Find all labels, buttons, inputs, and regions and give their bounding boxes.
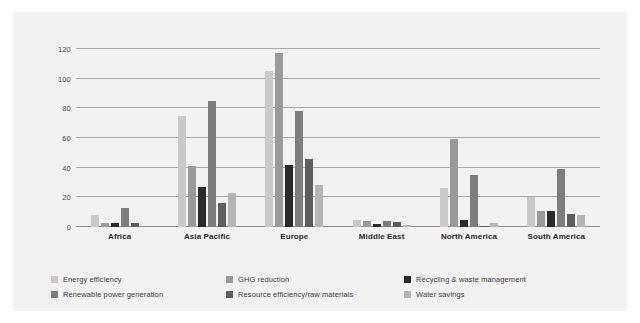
bar[interactable] [111,223,119,227]
y-tick-label-40: 40 [27,163,71,172]
legend-swatch-icon [404,276,411,283]
bar[interactable] [315,185,323,227]
bar[interactable] [131,223,139,227]
bar-group-middle-east [342,49,422,227]
y-axis: 020406080100120 [23,49,71,227]
bar[interactable] [440,188,448,227]
bar[interactable] [265,71,273,227]
bar[interactable] [557,169,565,227]
legend-swatch-icon [226,276,233,283]
bar[interactable] [490,223,498,227]
bar-group-europe [254,49,334,227]
bar[interactable] [547,211,555,227]
category-label: North America [429,232,509,241]
bar[interactable] [480,226,488,227]
legend-item[interactable]: Renewable power generation [51,290,226,299]
legend-swatch-icon [226,291,233,298]
legend-label: Resource efficiency/raw materials [238,290,353,299]
bar[interactable] [383,221,391,227]
legend-label: Recycling & waste management [416,275,526,284]
bar[interactable] [208,101,216,227]
bar-groups [76,49,600,227]
y-tick-label-120: 120 [27,45,71,54]
chart-legend: Energy efficiencyGHG reductionRecycling … [51,272,571,302]
legend-item[interactable]: Resource efficiency/raw materials [226,290,404,299]
category-axis-labels: AfricaAsia PacificEuropeMiddle EastNorth… [76,232,600,241]
bar[interactable] [393,222,401,227]
y-tick-label-100: 100 [27,74,71,83]
bar[interactable] [363,221,371,227]
bar[interactable] [285,165,293,227]
bar[interactable] [275,53,283,227]
legend-item[interactable]: Recycling & waste management [404,275,571,284]
bar[interactable] [567,214,575,227]
chart-panel: 020406080100120 AfricaAsia PacificEurope… [13,12,627,311]
bar[interactable] [228,193,236,227]
y-tick-label-80: 80 [27,104,71,113]
bar[interactable] [178,116,186,227]
bar[interactable] [450,139,458,227]
bar-group-south-america [516,49,596,227]
bar[interactable] [353,220,361,227]
legend-swatch-icon [51,291,58,298]
legend-label: Energy efficiency [63,275,122,284]
legend-item[interactable]: GHG reduction [226,275,404,284]
bar[interactable] [527,197,535,227]
legend-label: Renewable power generation [63,290,163,299]
category-label: Europe [254,232,334,241]
bar-group-north-america [429,49,509,227]
y-tick-label-60: 60 [27,134,71,143]
category-label: South America [516,232,596,241]
bar[interactable] [403,225,411,227]
category-label: Middle East [342,232,422,241]
chart-screenshot: 020406080100120 AfricaAsia PacificEurope… [0,0,640,323]
bar[interactable] [373,224,381,227]
y-tick-label-20: 20 [27,193,71,202]
bar[interactable] [577,215,585,227]
bar[interactable] [91,215,99,227]
bar[interactable] [121,208,129,227]
bar[interactable] [101,223,109,227]
bar[interactable] [470,175,478,227]
legend-item[interactable]: Water savings [404,290,571,299]
legend-label: Water savings [416,290,465,299]
legend-swatch-icon [404,291,411,298]
y-tick-label-0: 0 [27,223,71,232]
bar[interactable] [537,211,545,227]
bar-group-africa [80,49,160,227]
bar-group-asia-pacific [167,49,247,227]
bar[interactable] [295,111,303,227]
bar[interactable] [198,187,206,227]
bar[interactable] [305,159,313,227]
bar[interactable] [188,166,196,227]
legend-label: GHG reduction [238,275,289,284]
bar[interactable] [218,203,226,227]
bar[interactable] [460,220,468,227]
legend-swatch-icon [51,276,58,283]
category-label: Asia Pacific [167,232,247,241]
category-label: Africa [80,232,160,241]
legend-item[interactable]: Energy efficiency [51,275,226,284]
